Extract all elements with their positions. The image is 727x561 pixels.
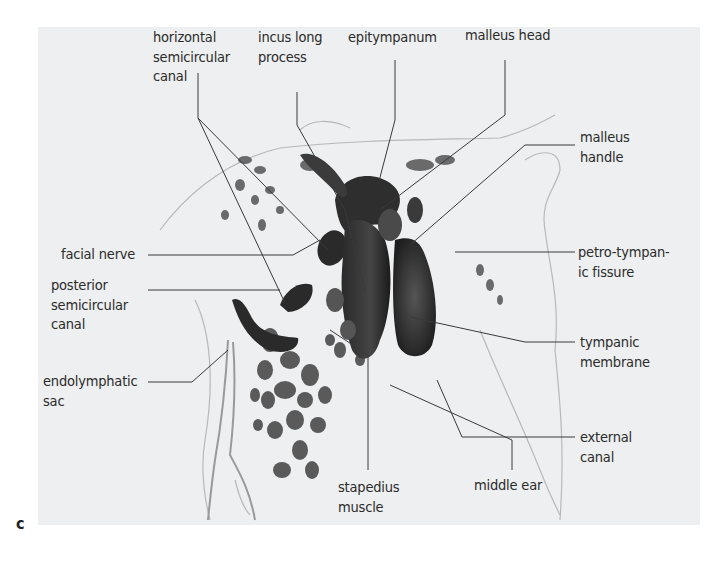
label-posterior-semicircular-canal: posterior semicircular canal	[51, 276, 128, 335]
label-facial-nerve: facial nerve	[61, 245, 135, 265]
label-tympanic-membrane: tympanic membrane	[580, 333, 650, 372]
label-middle-ear: middle ear	[474, 476, 542, 496]
label-malleus-handle: malleus handle	[580, 128, 630, 167]
label-incus-long-process: incus long process	[258, 28, 322, 67]
label-stapedius-muscle: stapedius muscle	[338, 478, 399, 517]
label-external-canal: external canal	[580, 428, 632, 467]
label-horizontal-semicircular-canal: horizontal semicircular canal	[153, 28, 230, 87]
label-malleus-head: malleus head	[465, 26, 550, 46]
label-epitympanum: epitympanum	[348, 28, 437, 48]
label-petro-tympanic-fissure: petro-tympan- ic fissure	[578, 243, 670, 282]
panel-letter: c	[16, 514, 25, 533]
label-endolymphatic-sac: endolymphatic sac	[43, 372, 137, 411]
endolymphatic-sac-shape	[208, 340, 255, 520]
